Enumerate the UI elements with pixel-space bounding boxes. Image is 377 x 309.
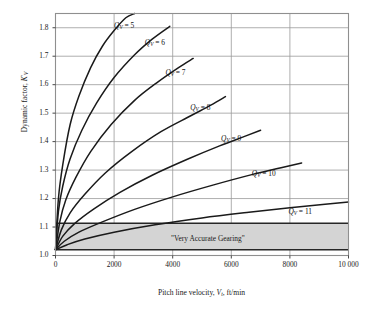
y-tick-label-1.4: 1.4 [23, 136, 49, 145]
y-tick-label-1.8: 1.8 [23, 23, 49, 32]
y-tick-label-1.6: 1.6 [23, 79, 49, 88]
curve-label-qv-9: QV = 9 [221, 134, 241, 143]
x-tick-label-8000: 8000 [270, 260, 310, 269]
chart-figure: Dynamic factor, K'V Pitch line velocity,… [0, 0, 377, 309]
curve-label-value: = 6 [153, 38, 165, 47]
curve-qv-6 [56, 26, 170, 250]
curve-label-qv-7: QV = 7 [165, 68, 185, 77]
curve-label-value: = 10 [260, 169, 275, 178]
curve-label-value: = 7 [174, 68, 186, 77]
curve-label-qv-8: QV = 8 [190, 103, 210, 112]
y-axis-title-text: Dynamic factor, [20, 81, 29, 132]
x-axis-title-pre: Pitch line velocity, [158, 288, 217, 297]
y-tick-label-1.2: 1.2 [23, 193, 49, 202]
y-tick-label-1.1: 1.1 [23, 222, 49, 231]
x-tick-label-4000: 4000 [153, 260, 193, 269]
x-axis-title: Pitch line velocity, Vt, ft/min [55, 288, 348, 297]
y-tick-label-1.7: 1.7 [23, 51, 49, 60]
y-axis-prime: ' [20, 75, 26, 76]
y-axis-subscript: V [23, 72, 29, 75]
curve-label-qv-6: QV = 6 [145, 38, 165, 47]
curve-label-value: = 8 [199, 103, 211, 112]
curve-label-qv-5: QV = 5 [114, 21, 134, 30]
y-tick-label-1.3: 1.3 [23, 165, 49, 174]
x-tick-label-0: 0 [36, 260, 76, 269]
y-tick-label-1.0: 1.0 [23, 250, 49, 259]
y-tick-label-1.5: 1.5 [23, 108, 49, 117]
curve-label-qv-10: QV = 10 [252, 169, 276, 178]
curve-label-value: = 9 [230, 134, 242, 143]
curve-label-value: = 11 [297, 207, 312, 216]
curve-label-value: = 5 [123, 21, 135, 30]
x-tick-label-2000: 2000 [94, 260, 134, 269]
x-axis-title-post: , ft/min [223, 288, 245, 297]
x-tick-label-10000: 10 000 [329, 260, 369, 269]
annotation-very-accurate-gearing: "Very Accurate Gearing" [148, 234, 268, 243]
x-tick-label-6000: 6000 [211, 260, 251, 269]
curve-label-qv-11: QV = 11 [288, 207, 312, 216]
